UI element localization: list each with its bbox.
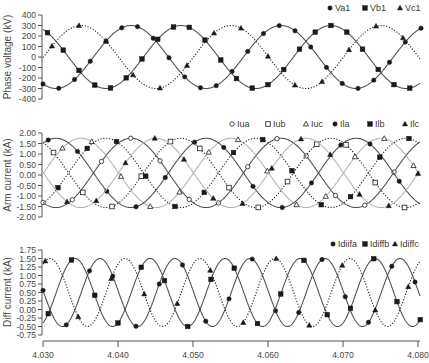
circle-marker-icon: [57, 86, 61, 90]
circle-marker-icon: [64, 323, 68, 327]
circle-marker-icon: [41, 82, 45, 86]
square-marker-icon: [313, 30, 318, 35]
waveform-figure: 4003002001000-100-200-300-400Phase volta…: [0, 0, 429, 363]
filled-triangle-icon: [402, 121, 407, 126]
legend-item-Iua: Iua: [230, 119, 250, 129]
y-axis-title: Arm current (kA): [2, 138, 13, 211]
circle-marker-icon: [340, 81, 344, 85]
triangle-marker-icon: [157, 85, 162, 90]
square-marker-icon: [302, 258, 307, 263]
series-Idiifa: [41, 257, 420, 329]
y-axis-title: Diff current (kA): [2, 257, 13, 327]
y-tick-label: -200: [19, 73, 36, 83]
legend-item-Ilb: Ilb: [368, 119, 385, 129]
legend-item-Idiifa: Idiifa: [331, 239, 357, 249]
square-marker-icon: [234, 76, 239, 81]
y-axis-title: Phase voltage (kV): [2, 15, 13, 100]
circle-marker-icon: [246, 49, 250, 53]
circle-marker-icon: [198, 85, 202, 89]
y-tick-label: 1.00: [19, 149, 36, 159]
filled-circle-icon: [328, 6, 332, 10]
filled-square-icon: [368, 122, 373, 127]
square-marker-icon: [250, 86, 255, 91]
square-marker-icon: [290, 168, 295, 173]
y-tick-label: 300: [22, 21, 37, 31]
legend-item-Idiffb: Idiffb: [363, 239, 390, 249]
legend-item-Idiffc: Idiffc: [392, 239, 419, 249]
x-tick-label: 4.040: [107, 350, 129, 360]
square-marker-icon: [185, 324, 190, 329]
square-marker-icon: [110, 204, 115, 209]
series-line: [43, 259, 420, 327]
legend-label: Ilc: [410, 119, 420, 129]
square-marker-icon: [281, 67, 286, 72]
y-axis: 1.751.501.251.000.750.500.250.00-0.25-0.…: [2, 245, 42, 340]
square-marker-icon: [278, 292, 283, 297]
circle-marker-icon: [70, 198, 74, 202]
square-marker-icon: [139, 174, 144, 179]
y-tick-label: 400: [22, 10, 37, 20]
x-axis: 4.0304.0404.0504.0604.0704.080: [32, 341, 429, 360]
square-marker-icon: [69, 258, 74, 263]
square-marker-icon: [61, 48, 66, 53]
circle-marker-icon: [134, 205, 138, 209]
square-marker-icon: [140, 57, 145, 62]
circle-marker-icon: [180, 263, 184, 267]
triangle-marker-icon: [307, 322, 312, 327]
y-tick-label: -1.50: [16, 202, 36, 212]
circle-marker-icon: [214, 83, 218, 87]
circle-marker-icon: [309, 45, 313, 49]
filled-circle-icon: [331, 242, 335, 246]
circle-marker-icon: [46, 138, 50, 142]
y-tick-label: -100: [19, 63, 36, 73]
square-marker-icon: [173, 204, 178, 209]
x-tick-label: 4.070: [332, 350, 354, 360]
square-marker-icon: [371, 256, 376, 261]
square-marker-icon: [92, 293, 97, 298]
square-marker-icon: [260, 137, 265, 142]
circle-marker-icon: [390, 264, 394, 268]
legend-label: Idiffb: [370, 239, 389, 249]
square-marker-icon: [402, 205, 407, 210]
y-tick-label: -0.75: [16, 330, 36, 340]
circle-marker-icon: [297, 310, 301, 314]
square-marker-icon: [56, 185, 61, 190]
square-marker-icon: [376, 67, 381, 72]
open-circle-icon: [230, 122, 234, 126]
legend-item-Vb1: Vb1: [363, 3, 386, 13]
y-tick-label: 1.50: [19, 139, 36, 149]
y-tick-label: 2.00: [19, 128, 36, 138]
y-axis: 4003002001000-100-200-300-400Phase volta…: [2, 10, 42, 104]
panel-1: 4003002001000-100-200-300-400Phase volta…: [2, 3, 423, 104]
square-marker-icon: [209, 277, 214, 282]
triangle-marker-icon: [175, 301, 180, 306]
triangle-marker-icon: [142, 291, 147, 296]
triangle-marker-icon: [292, 82, 297, 87]
triangle-marker-icon: [208, 268, 213, 273]
circle-marker-icon: [293, 29, 297, 33]
filled-square-icon: [363, 242, 368, 247]
square-marker-icon: [319, 202, 324, 207]
y-tick-label: 0: [31, 52, 36, 62]
square-marker-icon: [344, 30, 349, 35]
y-tick-label: 100: [22, 42, 37, 52]
y-tick-label: -0.50: [16, 181, 36, 191]
square-marker-icon: [155, 37, 160, 42]
circle-marker-icon: [246, 165, 250, 169]
y-tick-label: 0.00: [19, 170, 36, 180]
circle-marker-icon: [280, 205, 284, 209]
circle-marker-icon: [227, 297, 231, 301]
legend-label: Iuc: [311, 119, 324, 129]
triangle-marker-icon: [373, 307, 378, 312]
square-marker-icon: [392, 82, 397, 87]
circle-marker-icon: [187, 197, 191, 201]
y-tick-label: 200: [22, 31, 37, 41]
series-Idiffb: [43, 256, 423, 328]
triangle-marker-icon: [406, 284, 411, 289]
filled-circle-icon: [333, 122, 337, 126]
circle-marker-icon: [120, 26, 124, 30]
circle-marker-icon: [167, 55, 171, 59]
circle-marker-icon: [158, 159, 162, 163]
square-marker-icon: [418, 317, 423, 322]
y-axis: 2.001.501.000.500.00-0.50-1.00-1.50-2.00…: [2, 128, 42, 222]
